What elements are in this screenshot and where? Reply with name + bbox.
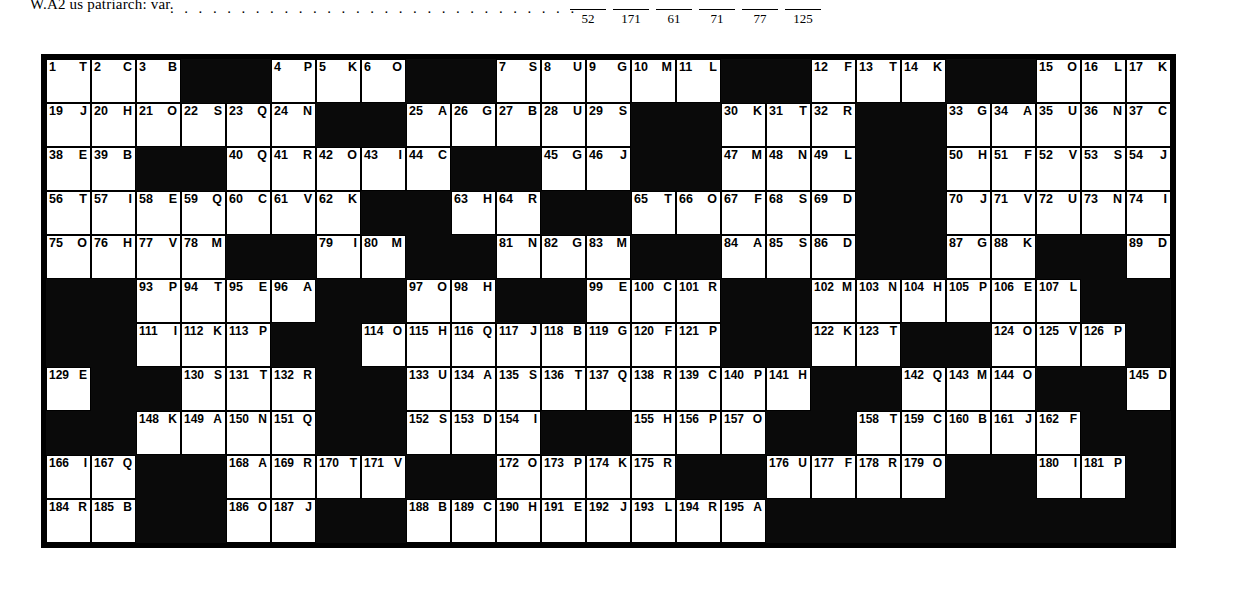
- grid-cell[interactable]: 124O: [991, 323, 1036, 367]
- grid-cell[interactable]: 71V: [991, 191, 1036, 235]
- grid-cell[interactable]: 35U: [1036, 103, 1081, 147]
- grid-cell[interactable]: 167Q: [91, 455, 136, 499]
- grid-cell[interactable]: 53S: [1081, 147, 1126, 191]
- grid-cell[interactable]: 166I: [46, 455, 91, 499]
- grid-cell[interactable]: 177F: [811, 455, 856, 499]
- grid-cell[interactable]: 81N: [496, 235, 541, 279]
- grid-cell[interactable]: 17K: [1126, 59, 1171, 103]
- grid-cell[interactable]: 134A: [451, 367, 496, 411]
- grid-cell[interactable]: 68S: [766, 191, 811, 235]
- grid-cell[interactable]: 99E: [586, 279, 631, 323]
- grid-cell[interactable]: 54J: [1126, 147, 1171, 191]
- grid-cell[interactable]: 113P: [226, 323, 271, 367]
- grid-cell[interactable]: 79I: [316, 235, 361, 279]
- grid-cell[interactable]: 104H: [901, 279, 946, 323]
- grid-cell[interactable]: 13T: [856, 59, 901, 103]
- grid-cell[interactable]: 106E: [991, 279, 1036, 323]
- grid-cell[interactable]: 43I: [361, 147, 406, 191]
- grid-cell[interactable]: 80M: [361, 235, 406, 279]
- answer-blank[interactable]: 125: [785, 0, 821, 26]
- grid-cell[interactable]: 36N: [1081, 103, 1126, 147]
- answer-blank[interactable]: 52: [570, 0, 606, 26]
- grid-cell[interactable]: 154I: [496, 411, 541, 455]
- grid-cell[interactable]: 69D: [811, 191, 856, 235]
- grid-cell[interactable]: 116Q: [451, 323, 496, 367]
- grid-cell[interactable]: 176U: [766, 455, 811, 499]
- grid-cell[interactable]: 126P: [1081, 323, 1126, 367]
- grid-cell[interactable]: 77V: [136, 235, 181, 279]
- grid-cell[interactable]: 179O: [901, 455, 946, 499]
- grid-cell[interactable]: 105P: [946, 279, 991, 323]
- grid-cell[interactable]: 136T: [541, 367, 586, 411]
- grid-cell[interactable]: 78M: [181, 235, 226, 279]
- grid-cell[interactable]: 114O: [361, 323, 406, 367]
- answer-blank[interactable]: 71: [699, 0, 735, 26]
- grid-cell[interactable]: 82G: [541, 235, 586, 279]
- grid-cell[interactable]: 50H: [946, 147, 991, 191]
- grid-cell[interactable]: 115H: [406, 323, 451, 367]
- grid-cell[interactable]: 20H: [91, 103, 136, 147]
- grid-cell[interactable]: 59Q: [181, 191, 226, 235]
- grid-cell[interactable]: 89D: [1126, 235, 1171, 279]
- grid-cell[interactable]: 180I: [1036, 455, 1081, 499]
- grid-cell[interactable]: 130S: [181, 367, 226, 411]
- grid-cell[interactable]: 125V: [1036, 323, 1081, 367]
- grid-cell[interactable]: 87G: [946, 235, 991, 279]
- grid-cell[interactable]: 149A: [181, 411, 226, 455]
- grid-cell[interactable]: 101R: [676, 279, 721, 323]
- grid-cell[interactable]: 70J: [946, 191, 991, 235]
- grid-cell[interactable]: 188B: [406, 499, 451, 543]
- grid-cell[interactable]: 30K: [721, 103, 766, 147]
- grid-cell[interactable]: 10M: [631, 59, 676, 103]
- grid-cell[interactable]: 63H: [451, 191, 496, 235]
- grid-cell[interactable]: 186O: [226, 499, 271, 543]
- grid-cell[interactable]: 56T: [46, 191, 91, 235]
- grid-cell[interactable]: 150N: [226, 411, 271, 455]
- grid-cell[interactable]: 118B: [541, 323, 586, 367]
- grid-cell[interactable]: 12F: [811, 59, 856, 103]
- grid-cell[interactable]: 38E: [46, 147, 91, 191]
- grid-cell[interactable]: 194R: [676, 499, 721, 543]
- grid-cell[interactable]: 39B: [91, 147, 136, 191]
- grid-cell[interactable]: 191E: [541, 499, 586, 543]
- grid-cell[interactable]: 4P: [271, 59, 316, 103]
- grid-cell[interactable]: 21O: [136, 103, 181, 147]
- grid-cell[interactable]: 28U: [541, 103, 586, 147]
- grid-cell[interactable]: 66O: [676, 191, 721, 235]
- grid-cell[interactable]: 111I: [136, 323, 181, 367]
- grid-cell[interactable]: 64R: [496, 191, 541, 235]
- grid-cell[interactable]: 26G: [451, 103, 496, 147]
- grid-cell[interactable]: 27B: [496, 103, 541, 147]
- grid-cell[interactable]: 31T: [766, 103, 811, 147]
- grid-cell[interactable]: 2C: [91, 59, 136, 103]
- grid-cell[interactable]: 94T: [181, 279, 226, 323]
- grid-cell[interactable]: 84A: [721, 235, 766, 279]
- grid-cell[interactable]: 100C: [631, 279, 676, 323]
- grid-cell[interactable]: 52V: [1036, 147, 1081, 191]
- grid-cell[interactable]: 173P: [541, 455, 586, 499]
- grid-cell[interactable]: 51F: [991, 147, 1036, 191]
- grid-cell[interactable]: 171V: [361, 455, 406, 499]
- grid-cell[interactable]: 140P: [721, 367, 766, 411]
- grid-cell[interactable]: 187J: [271, 499, 316, 543]
- grid-cell[interactable]: 96A: [271, 279, 316, 323]
- grid-cell[interactable]: 129E: [46, 367, 91, 411]
- grid-cell[interactable]: 170T: [316, 455, 361, 499]
- grid-cell[interactable]: 144O: [991, 367, 1036, 411]
- grid-cell[interactable]: 73N: [1081, 191, 1126, 235]
- grid-cell[interactable]: 61V: [271, 191, 316, 235]
- grid-cell[interactable]: 29S: [586, 103, 631, 147]
- grid-cell[interactable]: 195A: [721, 499, 766, 543]
- grid-cell[interactable]: 181P: [1081, 455, 1126, 499]
- grid-cell[interactable]: 153D: [451, 411, 496, 455]
- grid-cell[interactable]: 32R: [811, 103, 856, 147]
- grid-cell[interactable]: 148K: [136, 411, 181, 455]
- grid-cell[interactable]: 76H: [91, 235, 136, 279]
- grid-cell[interactable]: 121P: [676, 323, 721, 367]
- grid-cell[interactable]: 48N: [766, 147, 811, 191]
- grid-cell[interactable]: 88K: [991, 235, 1036, 279]
- grid-cell[interactable]: 151Q: [271, 411, 316, 455]
- grid-cell[interactable]: 14K: [901, 59, 946, 103]
- grid-cell[interactable]: 49L: [811, 147, 856, 191]
- grid-cell[interactable]: 162F: [1036, 411, 1081, 455]
